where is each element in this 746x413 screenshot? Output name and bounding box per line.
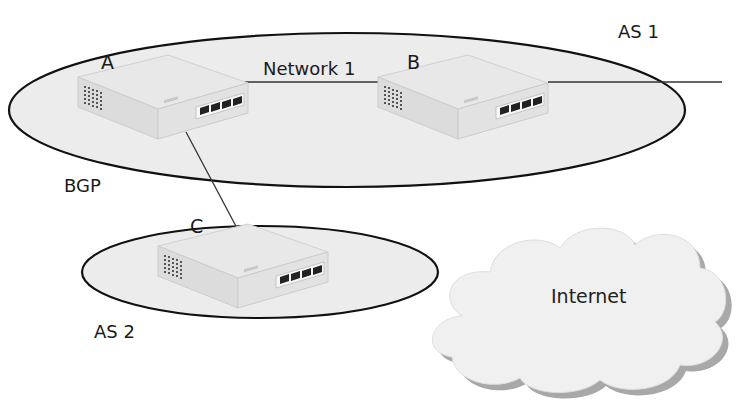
router-a-label: A (101, 51, 114, 73)
router-c-label: C (190, 215, 203, 237)
bgp-label: BGP (64, 175, 101, 196)
network1-label: Network 1 (263, 58, 355, 79)
router-b-label: B (407, 51, 420, 73)
internet-label: Internet (551, 285, 626, 307)
as2-label: AS 2 (94, 321, 135, 342)
as1-label: AS 1 (618, 21, 659, 42)
